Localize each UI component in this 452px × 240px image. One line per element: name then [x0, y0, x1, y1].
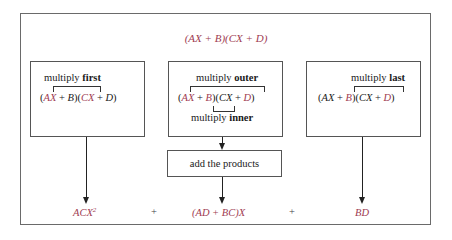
label-multiply-outer: multiply outer	[196, 72, 258, 83]
term-ax: AX	[44, 92, 57, 103]
label-prefix: multiply	[191, 112, 227, 123]
arrow-down-icon	[219, 143, 225, 150]
arrow-down-icon	[359, 197, 365, 204]
result-last: BD	[355, 207, 369, 218]
term-cx: CX	[219, 92, 232, 103]
term-cx: CX	[81, 92, 94, 103]
label-prefix: multiply	[44, 72, 80, 83]
arrow-line-first	[86, 137, 87, 199]
arrow-down-icon	[219, 197, 225, 204]
label-bold-last: last	[389, 72, 405, 83]
plus-sign-1: +	[151, 206, 157, 217]
label-bold-inner: inner	[229, 112, 253, 123]
label-multiply-first: multiply first	[44, 72, 101, 83]
plus-sign-2: +	[289, 206, 295, 217]
diagram-title: (AX + B)(CX + D)	[0, 32, 452, 44]
expression-first: (AX + B)(CX + D)	[40, 92, 117, 103]
term-ax: AX	[182, 92, 195, 103]
arrow-line-add-to-result	[222, 177, 223, 199]
expression-last: (AX + B)(CX + D)	[318, 92, 395, 103]
result-middle: (AD + BC)X	[192, 207, 245, 218]
expression-outer-inner: (AX + B)(CX + D)	[178, 92, 255, 103]
label-multiply-inner: multiply inner	[191, 112, 253, 123]
arrow-line-last	[362, 137, 363, 199]
add-products-label: add the products	[168, 158, 281, 169]
label-bold-first: first	[82, 72, 101, 83]
label-multiply-last: multiply last	[351, 72, 405, 83]
box-add-products: add the products	[167, 150, 282, 177]
arrow-down-icon	[83, 197, 89, 204]
label-prefix: multiply	[351, 72, 387, 83]
label-bold-outer: outer	[234, 72, 258, 83]
result-first-base: ACX	[73, 207, 93, 218]
term-d: D	[244, 92, 252, 103]
result-first-exponent: 2	[93, 206, 97, 214]
term-d: D	[384, 92, 392, 103]
label-prefix: multiply	[196, 72, 232, 83]
result-first: ACX2	[73, 207, 96, 218]
